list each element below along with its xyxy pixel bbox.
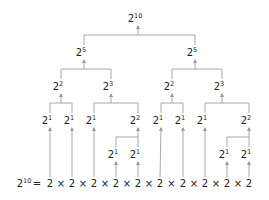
bracket-edge bbox=[227, 127, 251, 147]
leaf-link bbox=[203, 127, 207, 177]
leaf-link bbox=[247, 161, 251, 177]
arrow-up-icon bbox=[48, 127, 52, 131]
arrow-up-icon bbox=[114, 161, 118, 165]
times-sign: × bbox=[190, 178, 198, 189]
factor-two: 2 bbox=[91, 178, 97, 189]
factor-two: 2 bbox=[47, 178, 53, 189]
times-sign: × bbox=[123, 178, 131, 189]
arrow-up-icon bbox=[136, 161, 140, 165]
node-exponent: 3 bbox=[109, 80, 113, 88]
node-exponent: 1 bbox=[159, 114, 163, 122]
times-sign: × bbox=[101, 178, 109, 189]
arrow-up-icon bbox=[136, 25, 140, 29]
power-node: 21 bbox=[197, 114, 208, 126]
node-exponent: 1 bbox=[92, 114, 96, 122]
node-exponent: 1 bbox=[114, 148, 118, 156]
times-sign: × bbox=[57, 178, 65, 189]
factor-two: 2 bbox=[224, 178, 230, 189]
node-exponent: 5 bbox=[193, 46, 197, 54]
power-node: 21 bbox=[86, 114, 97, 126]
lhs-exponent: 10 bbox=[23, 177, 31, 185]
node-exponent: 5 bbox=[82, 46, 86, 54]
node-exponent: 10 bbox=[134, 12, 142, 20]
arrow-up-icon bbox=[247, 161, 251, 165]
bracket-edge bbox=[50, 93, 72, 113]
power-node: 25 bbox=[76, 46, 87, 58]
factor-two: 2 bbox=[157, 178, 163, 189]
times-sign: × bbox=[167, 178, 175, 189]
factor-tree-diagram: 210252522232223212121222121212221212121 … bbox=[0, 0, 269, 200]
leaf-link bbox=[114, 161, 118, 177]
leaf-link bbox=[159, 127, 163, 177]
factor-two: 2 bbox=[246, 178, 252, 189]
bracket-edge bbox=[205, 93, 249, 113]
leaf-link bbox=[70, 127, 74, 177]
equation-lhs: 210 bbox=[17, 177, 32, 189]
arrow-up-icon bbox=[70, 127, 74, 131]
node-exponent: 1 bbox=[203, 114, 207, 122]
power-node: 22 bbox=[130, 114, 141, 126]
bracket-edge bbox=[161, 93, 183, 113]
arrow-up-icon bbox=[247, 127, 251, 131]
leaf-link bbox=[225, 161, 229, 177]
power-node: 22 bbox=[53, 80, 64, 92]
power-node: 21 bbox=[130, 148, 141, 160]
leaf-link bbox=[48, 127, 52, 177]
arrow-up-icon bbox=[193, 59, 197, 63]
arrow-up-icon bbox=[82, 59, 86, 63]
power-node: 21 bbox=[219, 148, 230, 160]
leaf-link bbox=[92, 127, 96, 177]
arrow-up-icon bbox=[225, 161, 229, 165]
leaf-link bbox=[136, 161, 140, 177]
factor-two: 2 bbox=[202, 178, 208, 189]
bracket-edge bbox=[61, 59, 111, 79]
power-node: 21 bbox=[153, 114, 164, 126]
factor-two: 2 bbox=[113, 178, 119, 189]
node-exponent: 1 bbox=[136, 148, 140, 156]
node-exponent: 2 bbox=[136, 114, 140, 122]
arrow-up-icon bbox=[181, 127, 185, 131]
power-node: 21 bbox=[175, 114, 186, 126]
times-sign: × bbox=[79, 178, 87, 189]
times-sign: × bbox=[145, 178, 153, 189]
factor-two: 2 bbox=[69, 178, 75, 189]
node-exponent: 1 bbox=[70, 114, 74, 122]
arrow-up-icon bbox=[159, 127, 163, 131]
times-sign: × bbox=[212, 178, 220, 189]
bracket-edge bbox=[84, 25, 195, 45]
factor-two: 2 bbox=[180, 178, 186, 189]
power-node: 25 bbox=[187, 46, 198, 58]
arrow-up-icon bbox=[136, 127, 140, 131]
power-node: 21 bbox=[42, 114, 53, 126]
power-node: 23 bbox=[214, 80, 225, 92]
factor-two: 2 bbox=[135, 178, 141, 189]
arrow-up-icon bbox=[203, 127, 207, 131]
power-node: 23 bbox=[103, 80, 114, 92]
node-exponent: 1 bbox=[225, 148, 229, 156]
equals-sign: = bbox=[33, 178, 41, 189]
node-exponent: 2 bbox=[247, 114, 251, 122]
arrow-up-icon bbox=[109, 93, 113, 97]
power-node: 21 bbox=[64, 114, 75, 126]
tree-nodes: 210252522232223212121222121212221212121 bbox=[42, 12, 252, 160]
arrow-up-icon bbox=[59, 93, 63, 97]
node-exponent: 1 bbox=[181, 114, 185, 122]
power-node: 21 bbox=[108, 148, 119, 160]
node-exponent: 2 bbox=[59, 80, 63, 88]
node-exponent: 3 bbox=[220, 80, 224, 88]
power-node: 21 bbox=[241, 148, 252, 160]
power-node: 210 bbox=[128, 12, 143, 24]
arrow-up-icon bbox=[170, 93, 174, 97]
node-exponent: 1 bbox=[48, 114, 52, 122]
arrow-up-icon bbox=[220, 93, 224, 97]
node-exponent: 2 bbox=[170, 80, 174, 88]
arrow-up-icon bbox=[92, 127, 96, 131]
leaf-link bbox=[181, 127, 185, 177]
bracket-edge bbox=[94, 93, 138, 113]
bracket-edge bbox=[116, 127, 140, 147]
bracket-edge bbox=[172, 59, 222, 79]
equation-row: 210=2×2×2×2×2×2×2×2×2×2 bbox=[17, 177, 253, 189]
times-sign: × bbox=[234, 178, 242, 189]
node-exponent: 1 bbox=[247, 148, 251, 156]
power-node: 22 bbox=[241, 114, 252, 126]
